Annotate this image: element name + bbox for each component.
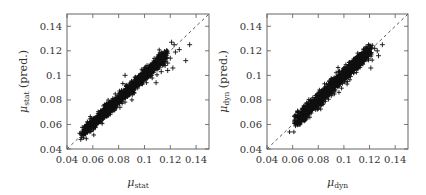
y-axis-label: μdyn (pred.) — [217, 50, 231, 112]
x-tick-label: 0.08 — [307, 154, 329, 165]
y-tick-label: 0.04 — [40, 144, 62, 155]
x-tick-label: 0.1 — [336, 154, 352, 165]
x-tick-label: 0.08 — [108, 154, 130, 165]
x-tick-label: 0.06 — [82, 154, 104, 165]
y-tick-label: 0.1 — [246, 70, 262, 81]
scatter-plot-stat: 0.040.060.080.10.120.140.040.060.080.10.… — [0, 0, 213, 195]
x-tick-label: 0.04 — [256, 154, 278, 165]
y-tick-label: 0.12 — [240, 45, 262, 56]
x-tick-label: 0.14 — [185, 154, 207, 165]
y-tick-label: 0.1 — [46, 70, 62, 81]
x-axis-label: μstat — [127, 176, 149, 190]
scatter-points — [77, 40, 192, 142]
y-tick-label: 0.14 — [240, 21, 262, 32]
scatter-points — [287, 42, 384, 134]
x-tick-label: 0.1 — [137, 154, 153, 165]
y-tick-label: 0.08 — [240, 94, 262, 105]
y-tick-label: 0.08 — [40, 94, 62, 105]
y-tick-label: 0.12 — [40, 45, 62, 56]
scatter-plot-dyn: 0.040.060.080.10.120.140.040.060.080.10.… — [213, 0, 426, 195]
x-tick-label: 0.12 — [358, 154, 380, 165]
x-tick-label: 0.04 — [56, 154, 78, 165]
x-tick-label: 0.12 — [159, 154, 181, 165]
x-axis-label: μdyn — [327, 176, 348, 190]
x-tick-label: 0.06 — [282, 154, 304, 165]
y-tick-label: 0.04 — [240, 144, 262, 155]
x-tick-label: 0.14 — [384, 154, 406, 165]
plot-canvas: 0.040.060.080.10.120.140.040.060.080.10.… — [0, 0, 213, 195]
plot-canvas: 0.040.060.080.10.120.140.040.060.080.10.… — [213, 0, 426, 195]
y-tick-label: 0.06 — [40, 119, 62, 130]
y-tick-label: 0.14 — [40, 21, 62, 32]
y-axis-label: μstat (pred.) — [17, 50, 31, 113]
y-tick-label: 0.06 — [240, 119, 262, 130]
